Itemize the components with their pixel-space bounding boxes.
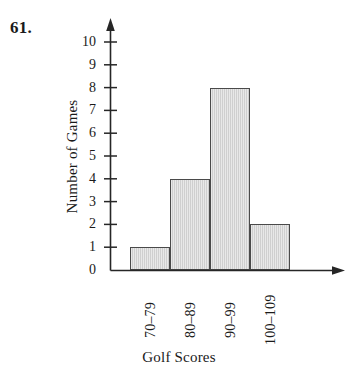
x-tick-label-90-99: 90–99 bbox=[223, 302, 239, 338]
x-axis-title: Golf Scores bbox=[0, 349, 358, 366]
x-tick-label-80-89: 80–89 bbox=[183, 302, 199, 338]
x-tick-label-100-109: 100–109 bbox=[263, 295, 279, 345]
x-tick-label-70-79: 70–79 bbox=[143, 302, 159, 338]
histogram-chart: Number of Games 10 9 8 7 6 5 4 3 2 1 0 bbox=[0, 0, 358, 384]
x-axis-tick-labels: 70–79 80–89 90–99 100–109 bbox=[0, 0, 358, 384]
